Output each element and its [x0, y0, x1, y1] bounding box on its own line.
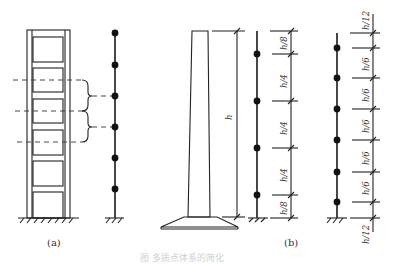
figure-canvas: (a) h: [0, 0, 397, 264]
mass-node: [112, 124, 119, 131]
mass-node: [112, 186, 119, 193]
segment-label: h/6: [361, 119, 371, 133]
segment-label: h/6: [361, 181, 371, 195]
segment-label: h/12: [361, 11, 371, 30]
mass-node: [112, 93, 119, 100]
ground-hatch-icon: [105, 218, 124, 223]
figure-caption: 图 多质点体系的简化: [140, 252, 224, 263]
segment-label: h/4: [279, 121, 289, 135]
panel-b-stick-model-1: h/8 h/4 h/4 h/4 h/8: [248, 28, 298, 222]
height-dimension: h: [212, 28, 245, 220]
segment-label: h/4: [279, 74, 289, 88]
brace-upper-icon: [82, 80, 92, 111]
panel-a-stick-model: [105, 30, 124, 223]
segment-label: h/8: [279, 201, 289, 215]
ground-hatch-icon: [248, 218, 268, 222]
mass-node: [254, 51, 261, 58]
ground-hatch-icon: [18, 218, 79, 223]
panel-b-chimney: [161, 31, 238, 229]
mass-node: [112, 62, 119, 69]
mass-node: [254, 192, 261, 199]
panel-a-label: (a): [47, 237, 61, 248]
window-6: [33, 37, 63, 62]
mass-node: [334, 137, 341, 144]
mass-node: [334, 75, 341, 82]
panel-b-stick-model-2: h/12 h/6 h/6 h/6 h/6 h/6 h/12: [327, 11, 380, 244]
brace-lower-icon: [82, 111, 92, 142]
mass-node: [334, 106, 341, 113]
segment-label: h/6: [361, 151, 371, 165]
mass-node: [112, 155, 119, 162]
segment-label: h/6: [361, 57, 371, 71]
segment-label: h/6: [361, 88, 371, 102]
panel-a-frame-building: [13, 30, 113, 223]
segment-label: h/8: [279, 36, 289, 50]
mass-node: [254, 145, 261, 152]
chimney-shaft: [188, 31, 210, 217]
window-1: [33, 192, 63, 218]
panel-b-label: (b): [284, 237, 298, 248]
window-2: [33, 161, 63, 186]
mass-node: [112, 30, 119, 37]
mass-node: [334, 199, 341, 206]
segment-label: h/12: [361, 225, 371, 244]
chimney-foundation: [161, 217, 238, 227]
mass-node: [334, 169, 341, 176]
height-label: h: [224, 115, 234, 120]
window-3: [33, 130, 63, 155]
segment-label: h/4: [279, 168, 289, 182]
mass-node: [334, 45, 341, 52]
ground-hatch-icon: [327, 218, 347, 223]
mass-node: [254, 98, 261, 105]
